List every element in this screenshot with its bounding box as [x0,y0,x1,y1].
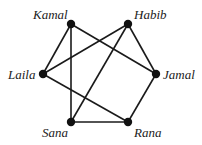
node-habib [124,20,132,28]
node-label-jamal: Jamal [163,67,195,82]
graph-diagram: KamalHabibLailaJamalSanaRana [0,0,202,145]
edges [43,24,156,122]
node-label-sana: Sana [42,125,69,140]
labels: KamalHabibLailaJamalSanaRana [7,7,195,140]
node-jamal [152,70,160,78]
edge-jamal-rana [128,74,156,122]
node-sana [67,118,75,126]
edge-laila-rana [43,74,128,122]
node-label-rana: Rana [133,125,162,140]
edge-habib-laila [43,24,128,74]
node-rana [124,118,132,126]
node-label-habib: Habib [133,7,167,22]
node-label-kamal: Kamal [32,7,68,22]
edge-habib-sana [71,24,128,122]
node-label-laila: Laila [7,67,36,82]
node-laila [39,70,47,78]
node-kamal [67,20,75,28]
